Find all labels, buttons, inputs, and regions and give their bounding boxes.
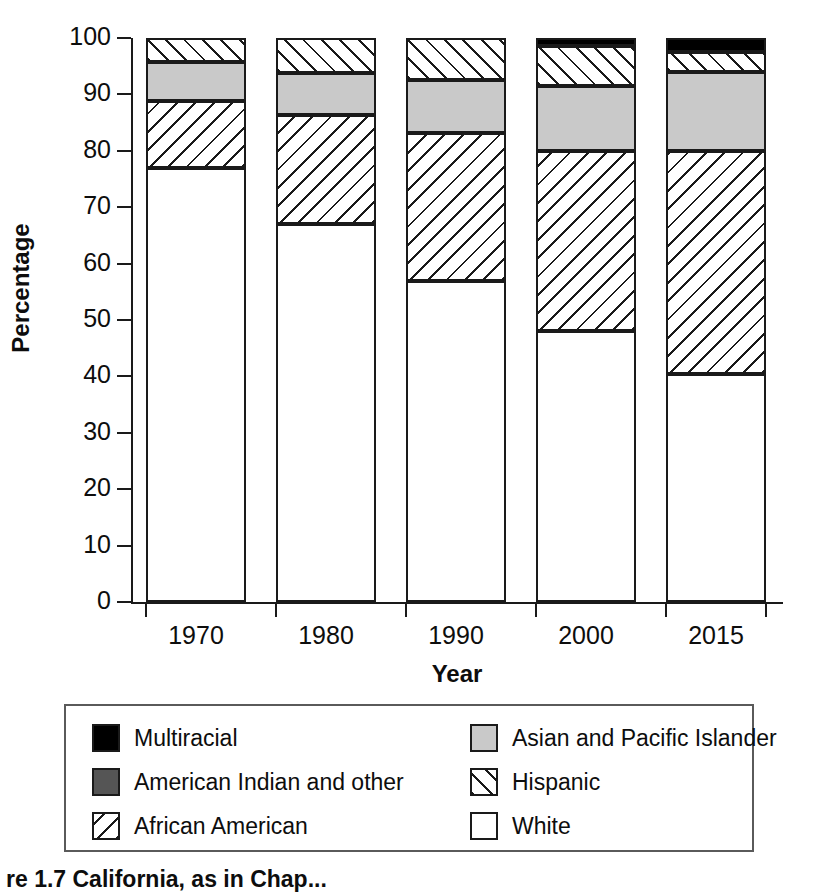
y-tick-100 — [117, 37, 131, 39]
bar-segment-2015-multiracial — [666, 38, 766, 52]
y-tick-label-30: 30 — [37, 419, 111, 444]
y-tick-label-60: 60 — [37, 250, 111, 275]
bar-segment-1980-white — [276, 224, 376, 602]
bar-segment-1970-asian-and-pacific-islander — [146, 62, 246, 101]
y-tick-30 — [117, 432, 131, 434]
legend-item-asian-and-pacific-islander[interactable]: Asian and Pacific Islander — [470, 724, 777, 752]
x-tick-label-2015: 2015 — [656, 620, 776, 650]
legend-swatch-african-american — [92, 812, 120, 840]
legend-item-white[interactable]: White — [470, 812, 571, 840]
x-axis-line — [131, 602, 783, 604]
y-tick-label-80: 80 — [37, 137, 111, 162]
bar-segment-1980-african-american — [276, 115, 376, 224]
x-tick-1990 — [405, 604, 407, 617]
x-tick-label-1970: 1970 — [136, 620, 256, 650]
legend-grid: MultiracialAsian and Pacific IslanderAme… — [66, 706, 752, 850]
bar-segment-1990-african-american — [406, 133, 506, 281]
legend-label-asian-and-pacific-islander: Asian and Pacific Islander — [512, 725, 777, 751]
y-tick-0 — [117, 601, 131, 603]
legend-item-african-american[interactable]: African American — [92, 812, 308, 840]
y-tick-90 — [117, 93, 131, 95]
plot-area — [131, 38, 781, 602]
bar-segment-2000-african-american — [536, 151, 636, 331]
y-tick-label-90: 90 — [37, 80, 111, 105]
x-tick-1970 — [145, 604, 147, 617]
bar-segment-2000-asian-and-pacific-islander — [536, 86, 636, 151]
legend-item-multiracial[interactable]: Multiracial — [92, 724, 238, 752]
y-tick-70 — [117, 206, 131, 208]
legend-label-hispanic: Hispanic — [512, 769, 600, 795]
legend-swatch-american-indian-and-other — [92, 768, 120, 796]
y-axis-title: Percentage — [7, 193, 35, 383]
x-tick-2000 — [535, 604, 537, 617]
bar-segment-2000-hispanic — [536, 46, 636, 85]
x-tick-label-1990: 1990 — [396, 620, 516, 650]
bar-segment-1990-asian-and-pacific-islander — [406, 80, 506, 132]
y-tick-label-50: 50 — [37, 306, 111, 331]
x-tick-label-1980: 1980 — [266, 620, 386, 650]
y-tick-40 — [117, 375, 131, 377]
bar-2000 — [536, 38, 636, 602]
bar-segment-2015-african-american — [666, 151, 766, 374]
legend-label-white: White — [512, 813, 571, 839]
bar-segment-2015-white — [666, 374, 766, 602]
bar-segment-1990-hispanic — [406, 38, 506, 80]
bar-1980 — [276, 38, 376, 602]
bar-segment-1970-hispanic — [146, 38, 246, 62]
legend-swatch-asian-and-pacific-islander — [470, 724, 498, 752]
legend-label-multiracial: Multiracial — [134, 725, 238, 751]
bar-1970 — [146, 38, 246, 602]
bar-segment-2015-hispanic — [666, 52, 766, 72]
bar-2015 — [666, 38, 766, 602]
bar-1990 — [406, 38, 506, 602]
legend-label-american-indian-and-other: American Indian and other — [134, 769, 404, 795]
y-tick-label-70: 70 — [37, 193, 111, 218]
x-tick-1980 — [275, 604, 277, 617]
bar-segment-1970-african-american — [146, 101, 246, 168]
bar-segment-1980-hispanic — [276, 38, 376, 73]
y-tick-label-100: 100 — [37, 24, 111, 49]
y-tick-80 — [117, 150, 131, 152]
bar-segment-2000-multiracial — [536, 38, 636, 46]
chart-root: Percentage Year 1009080706050403020100 1… — [0, 0, 813, 892]
x-tick-end — [765, 604, 767, 617]
legend-swatch-multiracial — [92, 724, 120, 752]
y-tick-10 — [117, 545, 131, 547]
y-tick-label-0: 0 — [37, 588, 111, 613]
figure-caption: re 1.7 California, as in Chap... — [6, 866, 327, 892]
legend-swatch-white — [470, 812, 498, 840]
bar-segment-2015-asian-and-pacific-islander — [666, 72, 766, 151]
bar-segment-2000-white — [536, 331, 636, 602]
legend-swatch-hispanic — [470, 768, 498, 796]
y-tick-50 — [117, 319, 131, 321]
legend-item-american-indian-and-other[interactable]: American Indian and other — [92, 768, 404, 796]
y-tick-label-20: 20 — [37, 475, 111, 500]
bar-segment-1990-white — [406, 281, 506, 602]
legend: MultiracialAsian and Pacific IslanderAme… — [64, 704, 754, 852]
y-tick-20 — [117, 488, 131, 490]
legend-label-african-american: African American — [134, 813, 308, 839]
bar-segment-1980-asian-and-pacific-islander — [276, 73, 376, 115]
bar-segment-1970-white — [146, 168, 246, 602]
x-tick-2015 — [665, 604, 667, 617]
y-tick-label-10: 10 — [37, 532, 111, 557]
legend-item-hispanic[interactable]: Hispanic — [470, 768, 600, 796]
x-tick-label-2000: 2000 — [526, 620, 646, 650]
x-axis-title: Year — [131, 660, 783, 688]
y-tick-label-40: 40 — [37, 362, 111, 387]
y-tick-60 — [117, 263, 131, 265]
